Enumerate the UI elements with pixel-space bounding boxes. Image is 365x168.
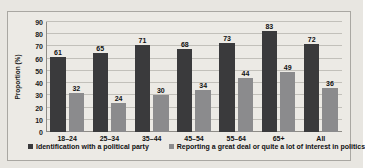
bar-value-label: 49 [284, 64, 292, 71]
chart-legend: Identification with a political partyRep… [28, 143, 338, 150]
cut-off-text-above-figure [66, 0, 246, 6]
bar: 34 [195, 90, 210, 132]
bar-group: 834965+ [257, 22, 299, 132]
x-axis-tick-label: 55–64 [227, 135, 246, 142]
bar: 71 [135, 45, 150, 132]
bar-value-label: 32 [72, 85, 80, 92]
bar-value-label: 65 [96, 45, 104, 52]
legend-item: Identification with a political party [28, 143, 149, 150]
bar: 36 [322, 88, 337, 132]
bar: 30 [153, 95, 168, 132]
y-axis-tick-label: 80 [35, 31, 43, 38]
x-axis-tick-label: All [316, 135, 325, 142]
bar-value-label: 71 [139, 37, 147, 44]
bar: 73 [219, 43, 234, 132]
y-axis-tick-label: 90 [35, 19, 43, 26]
bar-value-label: 24 [115, 95, 123, 102]
x-axis-tick-label: 25–34 [100, 135, 119, 142]
y-axis-tick-label: 10 [35, 116, 43, 123]
bar: 72 [304, 44, 319, 132]
bar-value-label: 36 [326, 80, 334, 87]
x-axis-tick-label: 45–54 [184, 135, 203, 142]
y-axis-tick-label: 60 [35, 55, 43, 62]
bar-group: 713035–44 [131, 22, 173, 132]
legend-item: Reporting a great deal or quite a lot of… [169, 143, 365, 150]
bar: 44 [238, 78, 253, 132]
bar: 68 [177, 49, 192, 132]
legend-label: Identification with a political party [36, 143, 149, 150]
bar: 61 [50, 57, 65, 132]
bar: 49 [280, 72, 295, 132]
y-axis-tick-label: 0 [39, 129, 43, 136]
bar-group: 7236All [300, 22, 342, 132]
legend-swatch-icon [169, 144, 174, 149]
y-axis-tick-label: 70 [35, 43, 43, 50]
legend-label: Reporting a great deal or quite a lot of… [177, 143, 365, 150]
legend-swatch-icon [28, 144, 33, 149]
plot-area: 0102030405060708090 613218–24652425–3471… [46, 22, 342, 132]
bar-group: 734455–64 [215, 22, 257, 132]
y-axis-label: Proportion (%) [14, 54, 21, 99]
bar-value-label: 72 [308, 36, 316, 43]
bar: 24 [111, 103, 126, 132]
y-axis-tick-label: 30 [35, 92, 43, 99]
bar-value-label: 44 [242, 70, 250, 77]
x-axis-tick-label: 35–44 [142, 135, 161, 142]
chart-figure: Proportion (%) 0102030405060708090 61321… [7, 11, 351, 161]
y-axis-tick-label: 40 [35, 80, 43, 87]
bar-value-label: 61 [54, 49, 62, 56]
bar-value-label: 83 [265, 23, 273, 30]
bar-group: 683445–54 [173, 22, 215, 132]
bar-value-label: 34 [199, 82, 207, 89]
x-axis-tick-label: 18–24 [57, 135, 76, 142]
x-axis-tick-label: 65+ [273, 135, 285, 142]
bar-group: 652425–34 [88, 22, 130, 132]
bar: 65 [93, 53, 108, 132]
bar-group: 613218–24 [46, 22, 88, 132]
bar: 83 [262, 31, 277, 132]
bar: 32 [69, 93, 84, 132]
y-axis-tick-label: 50 [35, 67, 43, 74]
bar-value-label: 30 [157, 87, 165, 94]
bar-value-label: 68 [181, 41, 189, 48]
bar-value-label: 73 [223, 35, 231, 42]
y-axis-tick-label: 20 [35, 104, 43, 111]
